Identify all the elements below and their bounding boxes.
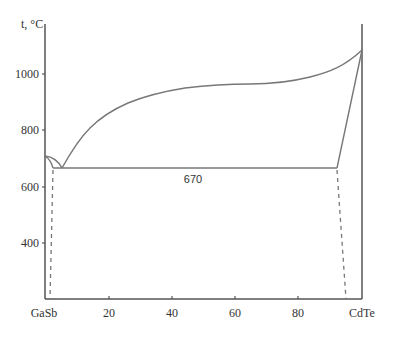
phase-diagram: 1000 800 600 400 t, °C GaSb 20 40 60 80 … (0, 0, 393, 337)
liquidus-main (62, 50, 362, 168)
x-tick-label-60: 60 (229, 306, 241, 320)
x-label-gasb: GaSb (31, 306, 58, 320)
x-tick-label-40: 40 (166, 306, 178, 320)
right-solubility-dashed (337, 170, 346, 299)
y-tick-label-600: 600 (21, 180, 39, 194)
x-tick-label-80: 80 (292, 306, 304, 320)
x-label-cdte: CdTe (349, 306, 375, 320)
phase-curves (45, 50, 362, 168)
y-tick-label-1000: 1000 (15, 67, 39, 81)
left-solubility-dashed (50, 170, 53, 299)
x-tick-label-20: 20 (103, 306, 115, 320)
y-axis-label: t, °C (21, 17, 43, 31)
axes (45, 24, 362, 299)
eutectic-temperature-label: 670 (184, 173, 202, 185)
y-tick-label-400: 400 (21, 236, 39, 250)
solidus-right (337, 50, 362, 168)
solubility-dashed (50, 170, 346, 299)
y-tick-label-800: 800 (21, 123, 39, 137)
